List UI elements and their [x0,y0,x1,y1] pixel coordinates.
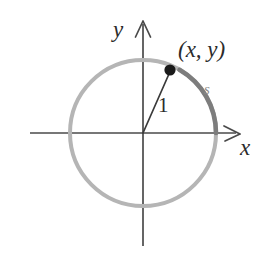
terminal-point-dot [164,64,175,75]
terminal-point-label: (x, y) [178,38,225,61]
radius-length-label: 1 [158,95,169,116]
x-axis-label: x [240,136,250,159]
arc-length-highlight [180,70,217,133]
arc-length-label: s [204,82,210,97]
unit-circle-figure: y x (x, y) s 1 [0,0,277,262]
unit-circle-diagram [0,0,277,262]
y-axis-label: y [113,18,123,41]
